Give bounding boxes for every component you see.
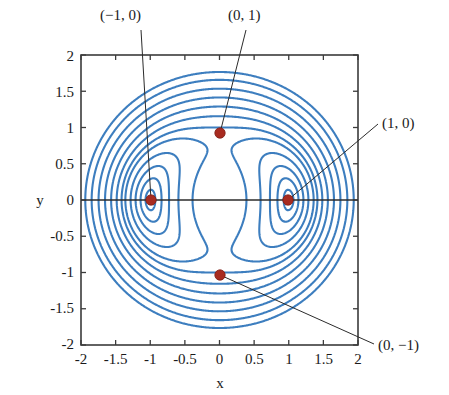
x-tick-label: 0: [216, 351, 224, 367]
annotation-label-center-left: (−1, 0): [100, 7, 141, 24]
annotation-label-saddle-bottom: (0, −1): [378, 337, 419, 354]
y-tick-label: 1: [67, 120, 75, 136]
x-tick-labels: -2 -1.5 -1 -0.5 0 0.5 1 1.5 2: [75, 351, 362, 367]
y-tick-label: 0: [67, 192, 75, 208]
x-tick-label: 1: [285, 351, 293, 367]
marker-center-right[interactable]: [283, 195, 293, 205]
annotation-label-center-right: (1, 0): [382, 115, 415, 132]
marker-saddle-top[interactable]: [215, 128, 225, 138]
marker-saddle-bottom[interactable]: [215, 270, 225, 280]
x-axis-title: x: [216, 375, 224, 391]
x-tick-label: -2: [75, 351, 88, 367]
y-tick-label: -2: [62, 336, 75, 352]
y-tick-label: 0.5: [55, 156, 74, 172]
contour-plot-figure: 2 1.5 1 0.5 0 -0.5 -1 -1.5 -2 -2 -1.5 -1…: [0, 0, 449, 395]
marker-center-left[interactable]: [146, 195, 156, 205]
figure-container: 2 1.5 1 0.5 0 -0.5 -1 -1.5 -2 -2 -1.5 -1…: [0, 0, 449, 395]
y-tick-label: -1.5: [50, 300, 74, 316]
x-tick-label: -1: [144, 351, 157, 367]
y-tick-label: 2: [67, 48, 75, 64]
x-tick-label: -0.5: [173, 351, 197, 367]
x-tick-label: 0.5: [245, 351, 264, 367]
x-tick-label: 2: [354, 351, 362, 367]
x-tick-label: 1.5: [314, 351, 333, 367]
y-tick-label: -0.5: [50, 228, 74, 244]
y-tick-labels: 2 1.5 1 0.5 0 -0.5 -1 -1.5 -2: [50, 48, 74, 352]
y-tick-label: -1: [62, 264, 75, 280]
y-axis-title: y: [36, 192, 44, 208]
annotation-label-saddle-top: (0, 1): [228, 7, 261, 24]
y-tick-label: 1.5: [55, 84, 74, 100]
x-tick-label: -1.5: [104, 351, 128, 367]
